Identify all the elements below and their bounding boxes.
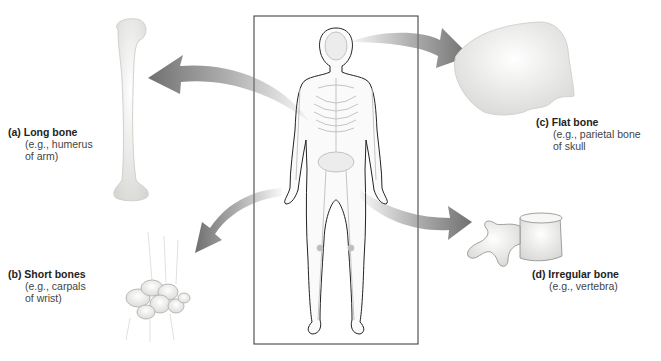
parietal-bone — [455, 22, 575, 115]
humerus-bone — [114, 19, 148, 201]
arrow-to-flat-bone — [350, 28, 470, 68]
label-flat-bone: (c) Flat bone (e.g., parietal bone of sk… — [536, 116, 641, 152]
carpal-bones — [126, 232, 190, 342]
vertebra — [468, 213, 563, 266]
arrow-to-short-bones — [195, 188, 282, 253]
label-short-bones-example: (e.g., carpals of wrist) — [8, 280, 86, 304]
bone-diagram-canvas — [0, 0, 661, 361]
arrow-to-long-bone — [148, 55, 310, 122]
label-long-bone-example: (e.g., humerus of arm) — [8, 138, 93, 162]
label-flat-bone-title: (c) Flat bone — [536, 116, 641, 128]
human-skeleton-figure — [285, 28, 388, 334]
label-flat-bone-example: (e.g., parietal bone of skull — [536, 128, 641, 152]
label-long-bone-title: (a) Long bone — [8, 126, 93, 138]
label-short-bones: (b) Short bones (e.g., carpals of wrist) — [8, 268, 86, 304]
label-irregular-bone: (d) Irregular bone (e.g., vertebra) — [532, 268, 619, 292]
label-short-bones-title: (b) Short bones — [8, 268, 86, 280]
label-long-bone: (a) Long bone (e.g., humerus of arm) — [8, 126, 93, 162]
label-irregular-bone-example: (e.g., vertebra) — [532, 280, 619, 292]
label-irregular-bone-title: (d) Irregular bone — [532, 268, 619, 280]
